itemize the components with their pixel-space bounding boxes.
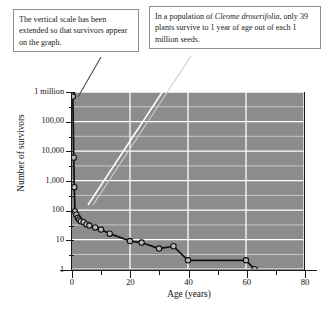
y-tick-major <box>66 211 74 212</box>
x-axis-title: Age (years) <box>72 289 306 299</box>
callout-survivorship: In a population of Cleome droserifolia, … <box>149 6 321 49</box>
x-tick-label: 80 <box>290 277 320 287</box>
y-tick-label: 10,000 <box>6 146 64 155</box>
y-tick-major <box>66 240 74 241</box>
y-axis-ticks: 1101001,00010,000100,001 million <box>2 0 64 314</box>
y-tick-minor <box>69 255 74 256</box>
x-tick-minor <box>101 271 102 275</box>
leader-line-left <box>78 57 101 97</box>
x-tick-label: 0 <box>57 277 87 287</box>
x-tick-minor <box>276 271 277 275</box>
x-tick-label: 20 <box>115 277 145 287</box>
y-tick-label: 1,000 <box>6 176 64 185</box>
callout-right-prefix: In a population of <box>155 12 215 21</box>
y-tick-minor <box>69 166 74 167</box>
survivorship-curve-figure: The vertical scale has been extended so … <box>0 0 328 314</box>
y-tick-minor <box>69 137 74 138</box>
plot-area <box>72 92 305 270</box>
y-tick-minor <box>69 196 74 197</box>
y-tick-label: 100 <box>6 205 64 214</box>
y-tick-label: 1 <box>6 265 64 274</box>
y-tick-major <box>66 151 74 152</box>
y-tick-minor <box>69 226 74 227</box>
survivorship-curve <box>72 92 304 269</box>
x-tick-minor <box>159 271 160 275</box>
y-tick-major <box>66 122 74 123</box>
y-tick-major <box>66 181 74 182</box>
x-tick-minor <box>218 271 219 275</box>
species-name: Cleome droserifolia <box>215 12 280 21</box>
y-axis-title: Number of survivors <box>16 83 26 223</box>
y-tick-major <box>66 92 74 93</box>
y-tick-minor <box>69 107 74 108</box>
y-tick-label: 100,00 <box>6 116 64 125</box>
x-tick-label: 40 <box>174 277 204 287</box>
x-tick-label: 60 <box>232 277 262 287</box>
y-tick-label: 1 million <box>6 87 64 96</box>
y-tick-label: 10 <box>6 235 64 244</box>
